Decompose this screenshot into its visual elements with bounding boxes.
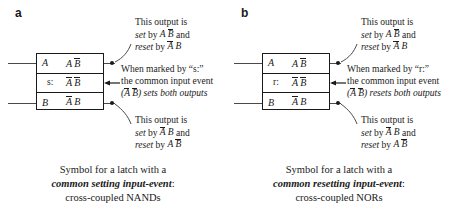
- set-expression-b: AB: [386, 127, 400, 137]
- panel-a: a A B s: AB AB AB This output is set by …: [0, 0, 225, 221]
- and-word-1: and: [402, 29, 416, 39]
- and-word-2: and: [176, 127, 190, 137]
- set-keyword: set: [361, 29, 372, 39]
- and-word-2: and: [402, 127, 416, 137]
- caption-colon: :: [402, 178, 405, 189]
- caption-line2: common resetting input-event:: [234, 177, 444, 191]
- input-pin-label-a: A: [268, 58, 274, 68]
- caption-line2: common setting input-event:: [8, 177, 218, 191]
- reset-expression-b: AB: [167, 139, 181, 149]
- annotation-bot-line1: This output is: [361, 115, 416, 127]
- reset-keyword: reset: [361, 41, 379, 51]
- annotation-top-line1: This output is: [135, 17, 190, 29]
- set-keyword-b: set: [361, 127, 372, 137]
- caption-emphasis: common resetting input-event: [273, 178, 402, 189]
- annotation-mid-line1: When marked by “s:”: [121, 64, 213, 76]
- input-wire-b: [8, 103, 37, 104]
- row-expression-middle: AB: [292, 76, 306, 88]
- caption-line3: cross-coupled NORs: [234, 191, 444, 205]
- paren-close: ): [138, 88, 141, 98]
- common-event-expression: AB: [124, 88, 138, 98]
- caption-line3: cross-coupled NANDs: [8, 191, 218, 205]
- row-divider-upper: [37, 73, 103, 74]
- reset-keyword: reset: [135, 41, 153, 51]
- set-expression: AB: [386, 29, 400, 39]
- by-word-1: by: [374, 29, 384, 39]
- output-node-bottom: [110, 101, 114, 105]
- input-wire-b: [234, 103, 263, 104]
- annotation-bot-line2: set by AB and: [135, 127, 190, 139]
- reset-keyword-b: reset: [135, 139, 153, 149]
- annotation-mid-line3: (AB) resets both outputs: [347, 87, 441, 99]
- annotation-bot-line3: reset by AB: [135, 139, 190, 151]
- event-mark-label: r:: [273, 77, 279, 87]
- input-pin-label-a: A: [42, 58, 48, 68]
- by-word-2: by: [156, 41, 166, 51]
- caption-line1: Symbol for a latch with a: [8, 163, 218, 177]
- annotation-mid-line2: the common input event: [121, 76, 213, 88]
- row-expression-middle: AB: [66, 76, 80, 88]
- input-pin-label-b: B: [268, 98, 274, 108]
- and-word-1: and: [176, 29, 190, 39]
- row-expression-top: AB: [292, 57, 306, 69]
- reset-keyword-b: reset: [361, 139, 379, 149]
- annotation-bot-line1: This output is: [135, 115, 190, 127]
- event-effect-text: sets both outputs: [144, 88, 208, 98]
- panel-label-b: b: [241, 6, 248, 20]
- annotation-top-output: This output is set by AB and reset by AB: [135, 17, 190, 53]
- set-keyword-b: set: [135, 127, 146, 137]
- by-word-1: by: [148, 29, 158, 39]
- panel-caption-b: Symbol for a latch with a common resetti…: [234, 163, 444, 205]
- annotation-bot-line2: set by AB and: [361, 127, 416, 139]
- row-divider-upper: [263, 73, 329, 74]
- annotation-bottom-output: This output is set by AB and reset by AB: [135, 115, 190, 151]
- annotation-bottom-output: This output is set by AB and reset by AB: [361, 115, 416, 151]
- output-node-bottom: [336, 101, 340, 105]
- annotation-top-line3: reset by AB: [135, 41, 190, 53]
- annotation-top-line2: set by AB and: [361, 29, 416, 41]
- annotation-middle-event: When marked by “s:” the common input eve…: [121, 64, 213, 99]
- annotation-mid-line1: When marked by “r:”: [347, 64, 441, 76]
- reset-expression: AB: [167, 41, 181, 51]
- caption-line1: Symbol for a latch with a: [234, 163, 444, 177]
- set-keyword: set: [135, 29, 146, 39]
- annotation-top-line1: This output is: [361, 17, 416, 29]
- annotation-bot-line3: reset by AB: [361, 139, 416, 151]
- annotation-mid-line2: the common input event: [347, 76, 441, 88]
- by-word-2: by: [382, 41, 392, 51]
- by-word-4: by: [382, 139, 392, 149]
- row-expression-bottom: AB: [66, 95, 80, 107]
- annotation-middle-event: When marked by “r:” the common input eve…: [347, 64, 441, 99]
- row-expression-top: AB: [66, 57, 80, 69]
- row-divider-lower: [37, 92, 103, 93]
- set-expression: AB: [160, 29, 174, 39]
- output-node-top: [110, 61, 114, 65]
- set-expression-b: AB: [160, 127, 174, 137]
- event-mark-label: s:: [47, 77, 53, 87]
- panel-b: b A B r: AB AB AB This output is set by …: [226, 0, 451, 221]
- annotation-top-line3: reset by AB: [361, 41, 416, 53]
- annotation-top-output: This output is set by AB and reset by AB: [361, 17, 416, 53]
- panel-label-a: a: [15, 6, 22, 20]
- input-wire-a: [8, 63, 37, 64]
- reset-expression-b: AB: [393, 139, 407, 149]
- reset-expression: AB: [393, 41, 407, 51]
- paren-close: ): [364, 88, 367, 98]
- caption-colon: :: [172, 178, 175, 189]
- by-word-4: by: [156, 139, 166, 149]
- panel-caption-a: Symbol for a latch with a common setting…: [8, 163, 218, 205]
- common-event-expression: AB: [350, 88, 364, 98]
- caption-emphasis: common setting input-event: [51, 178, 171, 189]
- event-effect-text: resets both outputs: [370, 88, 441, 98]
- row-expression-bottom: AB: [292, 95, 306, 107]
- by-word-3: by: [374, 127, 384, 137]
- by-word-3: by: [148, 127, 158, 137]
- output-node-top: [336, 61, 340, 65]
- annotation-mid-line3: (AB) sets both outputs: [121, 87, 213, 99]
- input-wire-a: [234, 63, 263, 64]
- annotation-top-line2: set by AB and: [135, 29, 190, 41]
- input-pin-label-b: B: [42, 98, 48, 108]
- row-divider-lower: [263, 92, 329, 93]
